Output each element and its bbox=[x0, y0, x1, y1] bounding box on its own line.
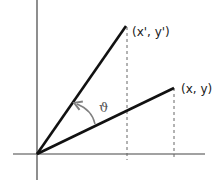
point-label-original: (x, y) bbox=[181, 82, 212, 96]
point-label-rotated: (x', y') bbox=[132, 25, 170, 39]
angle-label: ϑ bbox=[99, 100, 108, 115]
angle-arc-arrow-icon bbox=[77, 104, 95, 124]
vector-original bbox=[37, 88, 174, 154]
vector-rotated bbox=[37, 26, 126, 154]
rotation-diagram: ϑ (x', y') (x, y) bbox=[0, 0, 221, 185]
